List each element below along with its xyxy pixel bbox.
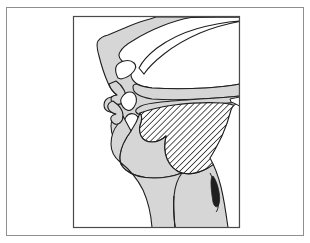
figure-root: Sagittal section of the human vocal trac… (0, 0, 310, 243)
upper-teeth (121, 92, 137, 110)
diagram-content (74, 17, 240, 228)
vocal-tract-diagram: Sagittal section of the human vocal trac… (0, 0, 310, 243)
